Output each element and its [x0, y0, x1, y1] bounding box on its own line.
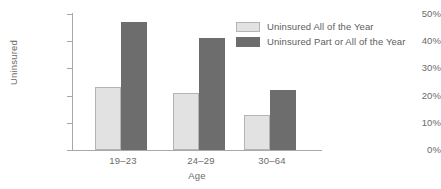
y-axis-label-30: 30% — [377, 63, 441, 73]
y-axis-label-10: 10% — [377, 118, 441, 128]
y-axis-title: Uninsured — [8, 28, 19, 98]
y-axis-label-20: 20% — [377, 91, 441, 101]
legend-swatch-dark-icon — [236, 37, 260, 47]
legend-item-part-or-all-year: Uninsured Part or All of the Year — [236, 35, 406, 48]
y-axis-label-50: 50% — [377, 9, 441, 19]
bar-30-64-all-year — [244, 115, 270, 150]
legend-label-part-or-all-year: Uninsured Part or All of the Year — [267, 36, 406, 47]
legend: Uninsured All of the Year Uninsured Part… — [236, 20, 406, 50]
bar-19-23-part-or-all-year — [121, 22, 147, 150]
legend-item-all-year: Uninsured All of the Year — [236, 20, 406, 33]
legend-swatch-light-icon — [236, 22, 260, 32]
x-axis-title: Age — [72, 170, 322, 181]
x-axis-line — [72, 150, 322, 151]
bar-chart: 0% 10% 20% 30% 40% 50% Uninsured 19–23 2… — [0, 0, 441, 189]
y-axis-tick-0 — [67, 150, 72, 151]
bar-30-64-part-or-all-year — [270, 90, 296, 150]
x-axis-label-24-29: 24–29 — [174, 155, 228, 166]
y-axis-label-0: 0% — [377, 145, 441, 155]
bar-24-29-part-or-all-year — [199, 38, 225, 150]
legend-label-all-year: Uninsured All of the Year — [267, 21, 374, 32]
bar-24-29-all-year — [173, 93, 199, 150]
bar-19-23-all-year — [95, 87, 121, 150]
x-axis-label-19-23: 19–23 — [96, 155, 150, 166]
x-axis-label-30-64: 30–64 — [245, 155, 299, 166]
